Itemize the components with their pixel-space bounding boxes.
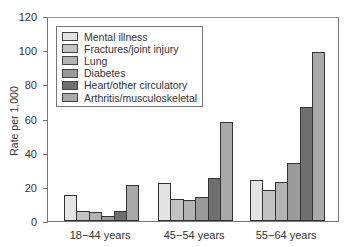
- legend-swatch-icon: [62, 32, 78, 41]
- bar: [64, 195, 77, 221]
- legend-item: Mental illness: [62, 31, 148, 42]
- legend-label: Fractures/joint injury: [84, 43, 179, 55]
- y-tick: [43, 154, 48, 155]
- bar: [220, 122, 233, 221]
- bar: [208, 178, 221, 221]
- bar-chart: Rate per 1,000 Mental illnessFractures/j…: [0, 0, 350, 247]
- bar: [76, 211, 89, 221]
- bar: [287, 163, 300, 221]
- plot-area: Mental illnessFractures/joint injuryLung…: [47, 17, 339, 222]
- y-tick: [43, 222, 48, 223]
- bar: [195, 197, 208, 221]
- bar: [300, 107, 313, 221]
- bar: [312, 52, 325, 221]
- bar: [114, 211, 127, 221]
- y-tick-label: 20: [7, 182, 37, 194]
- legend-label: Lung: [84, 55, 107, 67]
- bar: [183, 200, 196, 221]
- bar: [262, 190, 275, 221]
- bar: [126, 185, 139, 221]
- y-tick-label: 40: [7, 148, 37, 160]
- legend-label: Mental illness: [84, 31, 148, 43]
- y-tick: [43, 17, 48, 18]
- y-tick: [43, 85, 48, 86]
- bar: [250, 180, 263, 221]
- bar: [275, 182, 288, 221]
- legend-label: Heart/other circulatory: [84, 79, 187, 91]
- y-tick-label: 100: [7, 45, 37, 57]
- legend-label: Diabetes: [84, 67, 125, 79]
- legend-swatch-icon: [62, 93, 78, 102]
- legend-label: Arthritis/musculoskeletal: [84, 92, 197, 104]
- y-tick-label: 0: [7, 216, 37, 228]
- legend-item: Fractures/joint injury: [62, 43, 179, 54]
- bar: [101, 216, 114, 221]
- bar: [158, 183, 171, 221]
- legend: Mental illnessFractures/joint injuryLung…: [56, 26, 203, 107]
- legend-swatch-icon: [62, 44, 78, 53]
- bar: [170, 199, 183, 221]
- y-tick-label: 80: [7, 79, 37, 91]
- x-tick-label: 18−44 years: [55, 229, 145, 241]
- legend-swatch-icon: [62, 69, 78, 78]
- legend-item: Heart/other circulatory: [62, 80, 187, 91]
- legend-item: Lung: [62, 55, 107, 66]
- legend-item: Arthritis/musculoskeletal: [62, 92, 197, 103]
- bar: [89, 212, 102, 221]
- legend-item: Diabetes: [62, 68, 125, 79]
- x-tick-label: 55−64 years: [241, 229, 331, 241]
- legend-swatch-icon: [62, 56, 78, 65]
- y-tick-label: 60: [7, 114, 37, 126]
- y-tick: [43, 120, 48, 121]
- y-tick-label: 120: [7, 11, 37, 23]
- y-tick: [43, 188, 48, 189]
- y-tick: [43, 51, 48, 52]
- x-tick-label: 45−54 years: [149, 229, 239, 241]
- legend-swatch-icon: [62, 81, 78, 90]
